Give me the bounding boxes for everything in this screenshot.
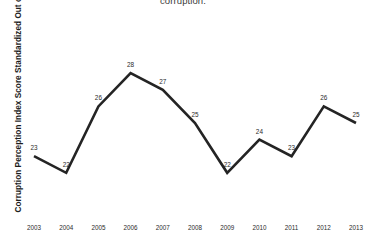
x-axis-tick-label: 2005 bbox=[91, 224, 105, 231]
data-point-label: 24 bbox=[256, 128, 264, 135]
data-point-label: 23 bbox=[288, 144, 296, 151]
x-axis-tick-label: 2003 bbox=[27, 224, 41, 231]
data-point-label: 26 bbox=[320, 94, 328, 101]
x-axis-tick-label: 2013 bbox=[349, 224, 363, 231]
data-point-label: 28 bbox=[127, 61, 135, 68]
data-point-label: 26 bbox=[95, 94, 103, 101]
x-axis-tick-label: 2011 bbox=[285, 224, 299, 231]
data-point-label: 22 bbox=[224, 161, 232, 168]
data-point-label: 25 bbox=[191, 111, 199, 118]
x-axis-tick-labels: 2003200420052006200720082009201020112012… bbox=[16, 224, 366, 236]
x-axis-tick-label: 2010 bbox=[252, 224, 266, 231]
series-line-corruption-index bbox=[34, 73, 356, 173]
x-axis-tick-label: 2012 bbox=[317, 224, 331, 231]
data-point-label: 23 bbox=[30, 144, 38, 151]
data-label-group: 2322262827252224232625 bbox=[30, 61, 360, 168]
data-point-label: 27 bbox=[159, 78, 167, 85]
x-axis-tick-label: 2004 bbox=[59, 224, 73, 231]
plot-area: 2322262827252224232625 bbox=[16, 6, 366, 218]
x-axis-tick-label: 2008 bbox=[188, 224, 202, 231]
x-axis-tick-label: 2009 bbox=[220, 224, 234, 231]
data-point-label: 22 bbox=[63, 161, 71, 168]
x-axis-tick-label: 2007 bbox=[156, 224, 170, 231]
x-axis-tick-label: 2006 bbox=[124, 224, 138, 231]
line-chart-svg: 2322262827252224232625 bbox=[16, 6, 366, 218]
data-point-label: 25 bbox=[352, 111, 360, 118]
chart-page: corruption. Corruption Perception Index … bbox=[0, 0, 366, 238]
